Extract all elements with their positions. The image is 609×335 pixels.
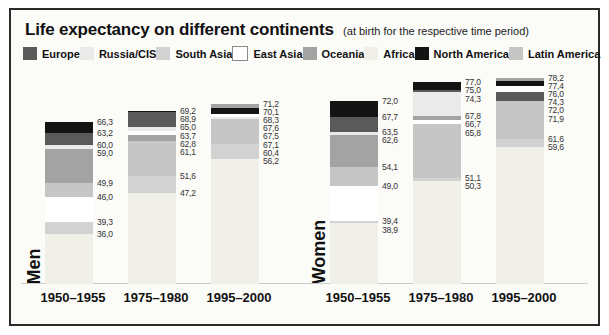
value-label-latin-america: 54,1 [382, 163, 398, 171]
value-label-oceania: 59,0 [97, 149, 113, 157]
value-label-east-asia: 46,0 [97, 193, 113, 201]
legend-label: Oceania [322, 48, 365, 60]
period-label: 1995–2000 [206, 290, 271, 305]
bar-women-1995-2000: 78,277,476,074,372,071,961,659,61995–200… [496, 71, 579, 284]
legend-item-latin-america: Latin America [509, 47, 600, 60]
period-label: 1950–1955 [325, 290, 390, 305]
group-label-women: Women [308, 86, 330, 284]
oceania-swatch-icon [303, 47, 317, 60]
bar-men-1995-2000: 71,270,168,367,667,567,160,456,21995–200… [211, 71, 294, 284]
value-label-east-asia: 49,0 [382, 182, 398, 190]
value-label-oceania: 62,6 [382, 136, 398, 144]
legend-item-europe: Europe [23, 47, 80, 60]
group-women: Women72,067,763,562,654,149,039,438,9195… [308, 71, 579, 284]
legend-label: Europe [42, 48, 80, 60]
bar-segment-africa [128, 193, 176, 284]
value-label-russia-cis: 74,3 [465, 95, 481, 103]
legend-label: Africa [383, 48, 414, 60]
bar-men-1975-1980: 69,268,965,063,762,861,151,647,21975–198… [128, 71, 211, 284]
value-label-latin-america: 49,9 [97, 179, 113, 187]
bar-segment-africa [496, 147, 544, 284]
legend-item-russia-cis: Russia/CIS [80, 47, 156, 60]
chart-title-row: Life expectancy on different continents … [25, 20, 588, 40]
legend-label: Latin America [528, 48, 600, 60]
period-label: 1975–1980 [123, 290, 188, 305]
legend-item-oceania: Oceania [303, 47, 365, 60]
value-label-africa: 56,2 [263, 157, 279, 165]
bar-segment-africa [45, 234, 93, 284]
legend-label: South Asia [175, 48, 232, 60]
period-label: 1975–1980 [408, 290, 473, 305]
bar-segment-africa [211, 159, 259, 284]
bar-segment-africa [330, 223, 378, 284]
russia-cis-swatch-icon [80, 47, 94, 60]
value-label-europe: 67,7 [382, 113, 398, 121]
bar-women-1975-1980: 77,075,074,367,866,765,851,150,31975–198… [413, 71, 496, 284]
value-label-north-america: 72,0 [382, 97, 398, 105]
legend-item-africa: Africa [364, 47, 414, 60]
south-asia-swatch-icon [156, 47, 170, 60]
value-label-africa: 38,9 [382, 226, 398, 234]
group-men: Men66,363,260,059,049,946,039,336,01950–… [23, 71, 294, 284]
period-label: 1950–1955 [40, 290, 105, 305]
value-label-europe: 63,2 [97, 129, 113, 137]
chart-title: Life expectancy on different continents [25, 20, 334, 39]
legend-label: East Asia [253, 48, 302, 60]
group-label-men: Men [23, 112, 45, 284]
legend-item-east-asia: East Asia [232, 46, 302, 61]
value-label-latin-america: 61,1 [180, 148, 196, 156]
europe-swatch-icon [23, 47, 37, 60]
africa-swatch-icon [364, 47, 378, 60]
legend: EuropeRussia/CISSouth AsiaEast AsiaOcean… [23, 46, 586, 61]
value-label-africa: 47,2 [180, 189, 196, 197]
value-label-africa: 59,6 [548, 143, 564, 151]
bar-segment-africa [413, 181, 461, 284]
chart-card: Life expectancy on different continents … [9, 8, 600, 326]
period-label: 1995–2000 [491, 290, 556, 305]
plot-area: Men66,363,260,059,049,946,039,336,01950–… [23, 71, 588, 284]
bar-women-1950-1955: 72,067,763,562,654,149,039,438,91950–195… [330, 71, 413, 284]
value-label-africa: 50,3 [465, 182, 481, 190]
east-asia-swatch-icon [232, 46, 248, 61]
value-label-africa: 36,0 [97, 230, 113, 238]
latin-america-swatch-icon [509, 47, 523, 60]
legend-label: Russia/CIS [99, 48, 156, 60]
legend-item-north-america: North America [415, 47, 509, 60]
north-america-swatch-icon [415, 47, 429, 60]
value-label-north-america: 66,3 [97, 118, 113, 126]
value-label-south-asia: 51,6 [180, 172, 196, 180]
chart-subtitle: (at birth for the respective time period… [343, 25, 529, 37]
value-label-south-asia: 39,3 [97, 218, 113, 226]
bar-men-1950-1955: 66,363,260,059,049,946,039,336,01950–195… [45, 71, 128, 284]
value-label-latin-america: 65,8 [465, 129, 481, 137]
legend-item-south-asia: South Asia [156, 47, 232, 60]
value-label-latin-america: 71,9 [548, 115, 564, 123]
legend-label: North America [434, 48, 509, 60]
